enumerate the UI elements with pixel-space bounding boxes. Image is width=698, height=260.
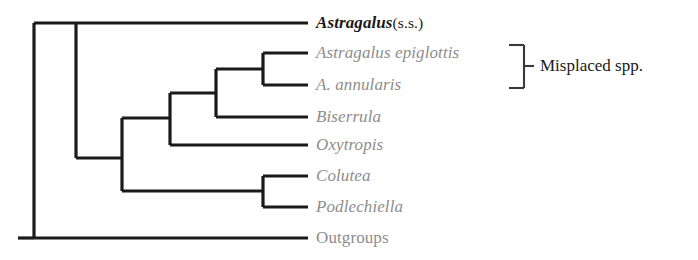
tip-label-a-annularis: A. annularis [316,76,401,93]
tip-label-podlechiella: Podlechiella [316,198,403,215]
cladogram-canvas [0,0,698,260]
tree-branches [18,23,308,238]
tip-suffix-sensu-stricto: (s.s.) [393,14,424,31]
tip-label-astragalus-ss: Astragalus(s.s.) [316,14,423,31]
phylogenetic-tree-figure: Astragalus(s.s.) Astragalus epiglottis A… [0,0,698,260]
tip-label-oxytropis: Oxytropis [316,136,383,153]
tip-genus-astragalus: Astragalus [316,13,393,32]
misplaced-spp-bracket [509,45,534,88]
annotation-misplaced-spp: Misplaced spp. [540,57,643,74]
tip-label-astragalus-epiglottis: Astragalus epiglottis [316,44,459,61]
tip-label-biserrula: Biserrula [316,108,381,125]
tip-label-outgroups: Outgroups [316,229,389,246]
tip-label-colutea: Colutea [316,167,371,184]
